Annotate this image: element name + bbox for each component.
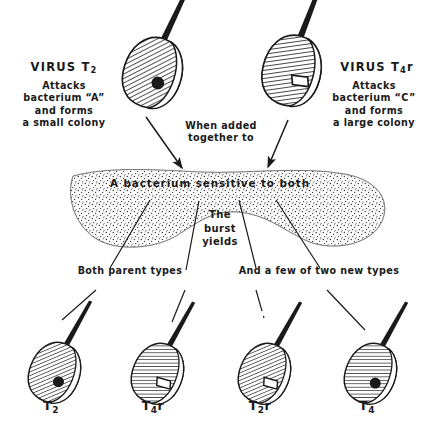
virus-t2-heading-subscript: 2 bbox=[90, 65, 97, 75]
virus-t4r-heading: VIRUS T4r bbox=[318, 60, 436, 76]
leader-line-t2r bbox=[256, 290, 264, 318]
virus-t4r-heading-text: VIRUS T bbox=[340, 60, 400, 74]
virus-t2-description: Attacks bacterium “A” and forms a small … bbox=[2, 80, 126, 129]
progeny-label-t4: T4 bbox=[336, 398, 398, 416]
progeny-label-t4-subscript: 4 bbox=[368, 405, 375, 415]
virus-t4r-description: Attacks bacterium “C” and forms a large … bbox=[312, 80, 436, 129]
new-types-label: And a few of two new types bbox=[228, 265, 410, 277]
bacterium-blob-label: A bacterium sensitive to both bbox=[98, 177, 322, 190]
progeny-label-t2r-subscript: 2 bbox=[258, 405, 265, 415]
virus-t4r-heading-subscript: 4 bbox=[400, 65, 407, 75]
progeny-t2r-particle bbox=[230, 290, 317, 411]
progeny-label-t4r-name: T bbox=[142, 398, 151, 413]
progeny-label-t2-name: T bbox=[43, 398, 52, 413]
progeny-label-t4r: T4r bbox=[122, 398, 184, 416]
progeny-label-t4r-suffix: r bbox=[158, 398, 165, 413]
leader-line-t4 bbox=[327, 290, 365, 330]
progeny-t2-particle bbox=[20, 289, 107, 410]
virus-t2-particle bbox=[114, 0, 209, 115]
burst-yields-label: The burst yields bbox=[196, 208, 244, 249]
progeny-label-t2r-name: T bbox=[249, 398, 258, 413]
phage-recombination-figure: VIRUS T2 Attacks bacterium “A” and forms… bbox=[0, 0, 437, 425]
progeny-label-t2r: T2r bbox=[229, 398, 291, 416]
progeny-label-t2: T2 bbox=[20, 398, 82, 416]
both-parent-types-label: Both parent types bbox=[64, 265, 196, 277]
leader-line-t2 bbox=[62, 290, 96, 320]
virus-t4r-heading-suffix: r bbox=[407, 60, 414, 74]
progeny-label-t2-subscript: 2 bbox=[52, 405, 59, 415]
progeny-label-t4r-subscript: 4 bbox=[151, 405, 158, 415]
progeny-label-t2r-suffix: r bbox=[265, 398, 272, 413]
virus-t2-heading-text: VIRUS T bbox=[31, 60, 91, 74]
when-added-together-label: When added together to bbox=[165, 120, 277, 145]
virus-t2-heading: VIRUS T2 bbox=[6, 60, 122, 76]
progeny-t4-particle bbox=[336, 290, 423, 411]
progeny-t4r-particle bbox=[123, 290, 210, 411]
progeny-label-t4-name: T bbox=[359, 398, 368, 413]
